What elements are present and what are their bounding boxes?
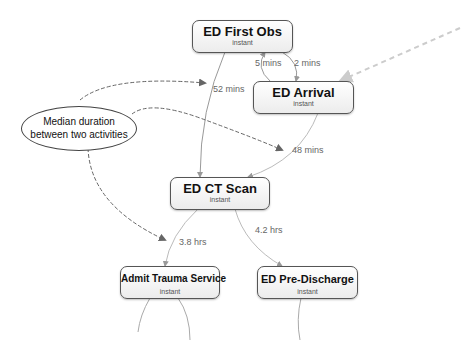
annotation-line-2: between two activities (22, 128, 136, 141)
edge-label-4-2-hrs: 4.2 hrs (255, 225, 283, 235)
node-duration: instant (254, 100, 353, 107)
node-duration: instant (193, 39, 292, 46)
node-ed-pre-discharge[interactable]: ED Pre-Discharge instant (257, 266, 358, 299)
edge-label-5-mins: 5 mins (255, 58, 282, 68)
node-duration: instant (121, 288, 219, 295)
edge-admit-out-2 (178, 298, 190, 340)
start-edge (342, 28, 460, 80)
edge-first-obs-to-ct[interactable] (200, 52, 225, 177)
node-ed-first-obs[interactable]: ED First Obs instant (192, 20, 293, 53)
annotation-arrow-48 (132, 108, 282, 150)
node-title: Admit Trauma Service (121, 273, 219, 285)
node-ed-arrival[interactable]: ED Arrival instant (253, 81, 354, 114)
edge-label-2-mins: 2 mins (294, 58, 321, 68)
annotation-median-duration: Median duration between two activities (21, 106, 137, 151)
annotation-line-1: Median duration (22, 115, 136, 128)
edge-ct-to-pre-discharge[interactable] (235, 209, 282, 266)
node-ed-ct-scan[interactable]: ED CT Scan instant (170, 177, 270, 210)
node-title: ED Pre-Discharge (258, 273, 357, 285)
edge-pre-discharge-out (298, 298, 301, 340)
node-title: ED First Obs (193, 24, 292, 39)
edge-admit-out-1 (138, 298, 150, 332)
node-admit-trauma-service[interactable]: Admit Trauma Service instant (120, 266, 220, 299)
node-title: ED CT Scan (171, 181, 269, 196)
annotation-arrow-38 (88, 148, 165, 240)
edge-label-52-mins: 52 mins (213, 84, 245, 94)
node-duration: instant (258, 288, 357, 295)
edge-label-3-8-hrs: 3.8 hrs (179, 237, 207, 247)
edge-label-48-mins: 48 mins (292, 145, 324, 155)
annotation-arrow-52 (80, 81, 205, 100)
node-title: ED Arrival (254, 85, 353, 100)
node-duration: instant (171, 196, 269, 203)
